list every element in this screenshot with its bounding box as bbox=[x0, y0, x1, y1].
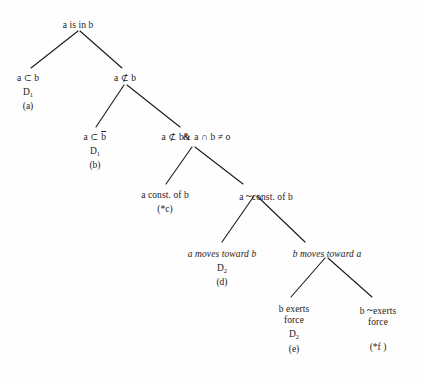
node-a-const-of-b-label: a const. of b bbox=[141, 190, 189, 201]
node-a-not-const-of-b: a ~const. of b bbox=[239, 190, 293, 203]
node-a-subset-b-tag: (a) bbox=[17, 101, 39, 112]
node-a-const-of-b: a const. of b (*c) bbox=[141, 190, 189, 215]
node-a-const-of-b-tag: (*c) bbox=[141, 204, 189, 215]
root-to-a-subset-b bbox=[31, 31, 78, 68]
node-b-moves-toward-a: b moves toward a bbox=[293, 249, 362, 260]
node-b-exerts-force-label-line2: force bbox=[279, 315, 310, 326]
node-a-moves-toward-b: a moves toward b D2 (d) bbox=[188, 249, 257, 289]
inter-to-a-const bbox=[166, 147, 192, 184]
root-to-a-notsubset-b bbox=[80, 31, 122, 68]
node-a-moves-toward-b-label: a moves toward b bbox=[188, 249, 257, 260]
a-notsubset-to-and-inter bbox=[127, 85, 180, 127]
node-a-subset-b: a ⊂ b D1 (a) bbox=[17, 73, 39, 113]
node-a-moves-toward-b-tag: (d) bbox=[188, 277, 257, 288]
node-b-exerts-force-derivation: D2 bbox=[279, 329, 310, 340]
node-a-notsubset-and-intersection: a ⊄ b& a ∩ b ≠ o bbox=[162, 132, 231, 143]
node-a-subset-bbar-label: a ⊂ b bbox=[83, 132, 106, 143]
node-root: a is in b bbox=[63, 20, 94, 31]
figure-canvas: a is in b a ⊂ b D1 (a) a ⊄ b a ⊂ b D1 (b… bbox=[0, 0, 423, 379]
node-b-not-exerts-force: b ~exerts force (*f ) bbox=[360, 304, 396, 354]
node-a-moves-toward-b-derivation: D2 bbox=[188, 263, 257, 274]
node-root-label: a is in b bbox=[63, 20, 94, 31]
node-a-subset-b-label: a ⊂ b bbox=[17, 73, 39, 84]
node-a-subset-bbar-derivation: D1 bbox=[83, 146, 106, 157]
node-a-notsubset-b-label: a ⊄ b bbox=[114, 73, 136, 84]
bmoves-to-b-exerts bbox=[291, 258, 325, 297]
node-a-subset-bbar-tag: (b) bbox=[83, 160, 106, 171]
node-b-exerts-force-tag: (e) bbox=[279, 344, 310, 355]
negation-tilde-icon: ~ bbox=[367, 303, 373, 316]
node-a-notsubset-b: a ⊄ b bbox=[114, 73, 136, 84]
ampersand-glyph: & bbox=[183, 132, 191, 143]
node-b-exerts-force: b exerts force D2 (e) bbox=[279, 304, 310, 355]
bmoves-to-b-not-exerts bbox=[328, 258, 372, 297]
inter-to-a-not-const bbox=[195, 147, 243, 184]
node-b-not-exerts-force-label-line1: b ~exerts bbox=[360, 304, 396, 317]
node-b-not-exerts-force-tag: (*f ) bbox=[360, 342, 396, 353]
node-b-not-exerts-force-label-line2: force bbox=[360, 317, 396, 328]
node-a-notsubset-and-intersection-label: a ⊄ b& a ∩ b ≠ o bbox=[162, 132, 231, 143]
node-a-subset-b-derivation: D1 bbox=[17, 87, 39, 98]
overline-b: b bbox=[101, 132, 107, 142]
node-a-subset-bbar: a ⊂ b D1 (b) bbox=[83, 132, 106, 172]
a-notsubset-to-a-subset-bbar bbox=[96, 85, 124, 127]
node-b-moves-toward-a-label: b moves toward a bbox=[293, 249, 362, 260]
node-b-exerts-force-label-line1: b exerts bbox=[279, 304, 310, 315]
node-a-not-const-of-b-label: a ~const. of b bbox=[239, 190, 293, 203]
negation-tilde-icon: ~ bbox=[246, 189, 252, 202]
